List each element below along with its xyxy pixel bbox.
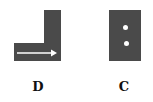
dot-bottom	[124, 41, 129, 46]
label-d: D	[28, 79, 48, 94]
rectangle	[109, 10, 141, 61]
dot-top	[123, 25, 128, 30]
label-c: C	[114, 79, 134, 94]
